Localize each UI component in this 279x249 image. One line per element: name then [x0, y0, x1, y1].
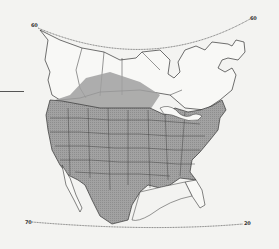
south-graticule-arc [32, 222, 243, 228]
north-america-map [0, 0, 279, 249]
label-bottom-left: 70 [25, 219, 32, 225]
scale-line [0, 91, 24, 92]
label-bottom-right: 20 [244, 220, 251, 226]
range-map: 60 60 70 20 [0, 0, 279, 249]
label-top-left: 60 [31, 22, 38, 28]
label-top-right: 60 [250, 15, 257, 21]
